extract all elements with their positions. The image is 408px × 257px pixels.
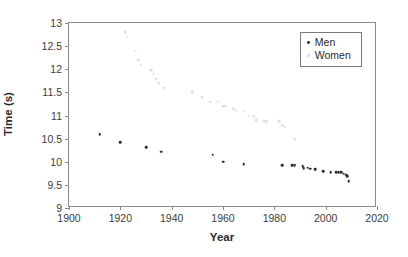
legend-label-men: Men bbox=[315, 37, 335, 48]
data-point-men bbox=[294, 164, 297, 167]
y-axis-tick bbox=[65, 46, 69, 47]
data-point-men bbox=[211, 154, 214, 157]
data-point-women bbox=[201, 96, 204, 99]
data-point-women bbox=[155, 77, 158, 80]
data-point-men bbox=[222, 160, 225, 163]
y-axis-tick-label: 10 bbox=[50, 157, 62, 168]
x-axis-tick bbox=[69, 206, 70, 210]
data-point-women bbox=[158, 82, 161, 85]
legend-marker-men-icon bbox=[307, 41, 310, 44]
y-axis-tick-label: 9.5 bbox=[47, 180, 62, 191]
data-point-women bbox=[152, 73, 155, 76]
data-point-men bbox=[330, 171, 333, 174]
data-point-men bbox=[347, 180, 350, 183]
x-axis-tick-label: 1900 bbox=[57, 213, 80, 224]
data-point-men bbox=[346, 175, 349, 178]
data-point-men bbox=[99, 133, 102, 136]
x-axis-tick bbox=[326, 206, 327, 210]
x-axis-tick-label: 2000 bbox=[314, 213, 337, 224]
legend-label-women: Women bbox=[315, 50, 351, 61]
y-axis-title: Time (s) bbox=[2, 92, 14, 136]
y-axis-tick bbox=[65, 185, 69, 186]
data-point-women bbox=[278, 120, 281, 123]
data-point-women bbox=[191, 91, 194, 94]
x-axis-tick-label: 1920 bbox=[109, 213, 132, 224]
y-axis-tick-label: 12 bbox=[50, 64, 62, 75]
legend-item-men: Men bbox=[305, 36, 357, 49]
y-axis-tick bbox=[65, 92, 69, 93]
data-point-women bbox=[163, 86, 166, 89]
data-point-men bbox=[160, 150, 163, 153]
data-point-women bbox=[150, 69, 153, 72]
data-point-women bbox=[137, 59, 140, 62]
data-point-women bbox=[124, 31, 127, 34]
x-axis-tick-label: 1980 bbox=[263, 213, 286, 224]
y-axis-tick-label: 11 bbox=[51, 110, 62, 121]
data-point-men bbox=[145, 146, 148, 149]
data-point-women bbox=[247, 114, 250, 117]
x-axis-tick bbox=[120, 206, 121, 210]
y-axis-tick bbox=[65, 162, 69, 163]
x-axis-tick-label: 1940 bbox=[160, 213, 183, 224]
data-point-women bbox=[209, 100, 212, 103]
y-axis-tick bbox=[65, 69, 69, 70]
data-point-women bbox=[140, 63, 143, 66]
figure: Time (s) Year 99.51010.51111.51212.51319… bbox=[0, 0, 408, 257]
y-axis-tick-label: 12.5 bbox=[42, 41, 62, 52]
data-point-men bbox=[281, 164, 284, 167]
legend-marker-women-icon bbox=[307, 54, 310, 57]
y-axis-tick bbox=[65, 23, 69, 24]
data-point-women bbox=[265, 120, 268, 123]
data-point-men bbox=[303, 167, 306, 170]
x-axis-tick bbox=[172, 206, 173, 210]
y-axis-tick bbox=[65, 139, 69, 140]
data-point-women bbox=[255, 119, 258, 122]
data-point-men bbox=[322, 170, 325, 173]
y-axis-tick-label: 10.5 bbox=[42, 133, 62, 144]
legend: Men Women bbox=[300, 32, 362, 67]
data-point-men bbox=[314, 168, 317, 171]
x-axis-tick-label: 1960 bbox=[211, 213, 234, 224]
data-point-women bbox=[235, 110, 238, 113]
x-axis-tick bbox=[274, 206, 275, 210]
data-point-women bbox=[217, 100, 220, 103]
data-point-women bbox=[242, 111, 245, 114]
data-point-women bbox=[125, 36, 128, 39]
y-axis-tick-label: 13 bbox=[50, 18, 62, 29]
data-point-men bbox=[119, 141, 122, 144]
x-axis-tick-label: 2020 bbox=[365, 213, 388, 224]
data-point-women bbox=[294, 138, 297, 141]
data-point-men bbox=[242, 163, 245, 166]
y-axis-tick bbox=[65, 116, 69, 117]
x-axis-tick bbox=[223, 206, 224, 210]
legend-item-women: Women bbox=[305, 49, 357, 62]
data-point-women bbox=[283, 125, 286, 128]
data-point-women bbox=[253, 115, 256, 118]
data-point-men bbox=[309, 167, 312, 170]
data-point-women bbox=[224, 105, 227, 108]
y-axis-tick-label: 11.5 bbox=[42, 87, 62, 98]
data-point-women bbox=[134, 49, 137, 52]
x-axis-tick bbox=[377, 206, 378, 210]
x-axis-title: Year bbox=[210, 231, 234, 243]
